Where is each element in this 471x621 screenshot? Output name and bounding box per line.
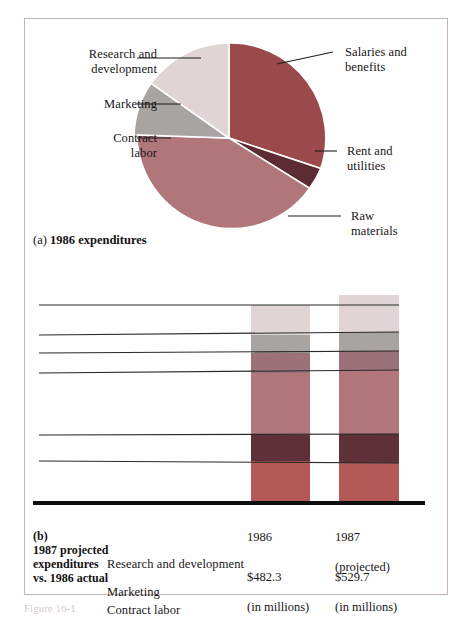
bar-column-total-1986: $482.3 (in millions) bbox=[247, 555, 342, 615]
bar-1986-segment-rent-and-utilities[interactable] bbox=[251, 435, 310, 461]
bar-label-marketing: Marketing bbox=[107, 585, 160, 600]
bar-total-1987-units: (in millions) bbox=[335, 600, 397, 614]
bar-total-1987-value: $529.7 bbox=[335, 570, 369, 584]
panel-a-marker: (a) bbox=[33, 233, 47, 247]
bar-1987-segment-marketing[interactable] bbox=[339, 332, 399, 351]
bar-1987-segment-raw-materials[interactable] bbox=[339, 370, 399, 434]
pie-chart-panel: Research and development Marketing Contr… bbox=[25, 19, 447, 269]
pie-label-marketing: Marketing bbox=[39, 97, 157, 112]
bar-total-1986-value: $482.3 bbox=[247, 570, 281, 584]
pie-label-research-and-development: Research and development bbox=[39, 47, 157, 76]
bar-label-research-and-development: Research and development bbox=[107, 557, 244, 572]
bar-column-total-1987: $529.7 (in millions) bbox=[335, 555, 430, 615]
figure-frame: Research and development Marketing Contr… bbox=[24, 18, 448, 595]
leader-line-salaries bbox=[277, 52, 333, 64]
bar-chart-panel: Research and development Marketing Contr… bbox=[25, 267, 447, 594]
pie-label-salaries-and-benefits: Salaries and benefits bbox=[345, 45, 455, 74]
pie-slices bbox=[134, 43, 326, 229]
panel-b-caption: (b) 1987 projected expenditures vs. 1986… bbox=[33, 515, 108, 585]
bar-1986-segment-raw-materials[interactable] bbox=[251, 373, 310, 435]
bar-1987-segment-contract-labor[interactable] bbox=[339, 351, 399, 370]
figure-caption: Figure 16-1 bbox=[24, 602, 76, 614]
panel-a-title: 1986 expenditures bbox=[50, 233, 147, 247]
bar-1986-segment-contract-labor[interactable] bbox=[251, 353, 310, 373]
bar-1987-segment-salaries-and-benefits[interactable] bbox=[339, 463, 399, 501]
panel-a-caption: (a) 1986 expenditures bbox=[33, 233, 147, 248]
bar-total-1986-units: (in millions) bbox=[247, 600, 309, 614]
bar-1987-segment-research-and-development[interactable] bbox=[339, 295, 399, 332]
bar-1987-segment-rent-and-utilities[interactable] bbox=[339, 434, 399, 463]
bar-1987-projected[interactable] bbox=[339, 295, 399, 501]
panel-b-marker: (b) bbox=[33, 529, 48, 543]
panel-b-title: 1987 projected expenditures vs. 1986 act… bbox=[33, 543, 108, 585]
bar-column-1987-head: 1987 bbox=[335, 530, 360, 544]
pie-label-rent-and-utilities: Rent and utilities bbox=[347, 144, 457, 173]
pie-label-raw-materials: Raw materials bbox=[351, 209, 461, 238]
pie-label-contract-labor: Contract labor bbox=[39, 131, 157, 160]
bar-column-1986-head: 1986 bbox=[247, 530, 272, 544]
bar-1986[interactable] bbox=[251, 305, 310, 501]
bar-1986-segment-salaries-and-benefits[interactable] bbox=[251, 461, 310, 501]
bar-column-header-1986: 1986 bbox=[247, 515, 342, 545]
bar-1986-segment-marketing[interactable] bbox=[251, 335, 310, 353]
bar-1986-segment-research-and-development[interactable] bbox=[251, 305, 310, 335]
bar-label-contract-labor: Contract labor bbox=[107, 603, 180, 618]
